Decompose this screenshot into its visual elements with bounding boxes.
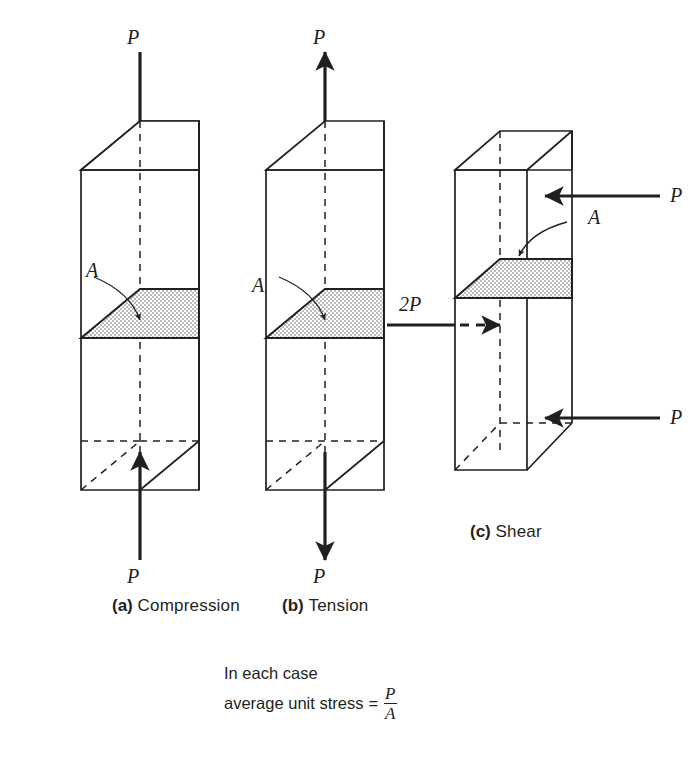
compression-section-plane: [81, 289, 199, 338]
note-line-1: In each case: [224, 662, 397, 684]
fraction-denominator: A: [383, 704, 397, 722]
caption-shear-label: Shear: [496, 522, 542, 541]
label-A-compression: A: [84, 259, 99, 281]
diagram-canvas: P P P P P P 2P A A A: [0, 0, 690, 768]
label-A-shear: A: [586, 206, 601, 228]
label-P-shear-top: P: [669, 184, 682, 206]
caption-compression: (a) Compression: [112, 596, 240, 616]
label-P-compression-bottom: P: [126, 565, 139, 587]
note-equals-sign: =: [368, 692, 378, 714]
caption-tension: (b) Tension: [282, 596, 368, 616]
shear-section-plane: [455, 259, 572, 298]
caption-compression-tag: (a): [112, 596, 133, 615]
fraction-numerator: P: [383, 685, 397, 703]
label-A-tension: A: [250, 274, 265, 296]
caption-tension-label: Tension: [308, 596, 368, 615]
panel-shear-geometry: [387, 131, 660, 470]
note-line-2-text: average unit stress: [224, 692, 363, 714]
label-2P-shear-left: 2P: [399, 293, 421, 315]
stress-diagram-figure: P P P P P P 2P A A A (a) Compression (b)…: [0, 0, 690, 768]
stress-fraction: P A: [383, 685, 397, 722]
caption-tension-tag: (b): [282, 596, 304, 615]
panel-compression-geometry: [81, 52, 199, 560]
tension-section-plane: [266, 289, 384, 338]
label-P-tension-bottom: P: [312, 565, 325, 587]
label-P-compression-top: P: [126, 26, 139, 48]
caption-shear: (c) Shear: [470, 522, 542, 542]
panel-tension-geometry: [266, 52, 384, 560]
stress-formula-note: In each case average unit stress = P A: [224, 662, 397, 721]
note-line-2: average unit stress = P A: [224, 684, 397, 721]
caption-compression-label: Compression: [138, 596, 240, 615]
label-P-tension-top: P: [312, 26, 325, 48]
label-P-shear-bottom: P: [669, 406, 682, 428]
caption-shear-tag: (c): [470, 522, 491, 541]
